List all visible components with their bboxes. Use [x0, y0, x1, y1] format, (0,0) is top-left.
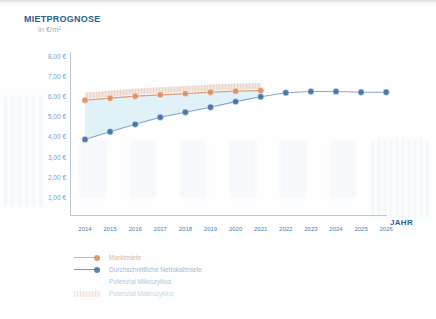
legend-line-marker-icon	[74, 253, 104, 263]
legend-area-swatch-icon	[74, 277, 104, 287]
legend-item-label: Potenzial Mikrozyklus	[109, 278, 172, 285]
legend-dot-icon	[94, 267, 100, 273]
legend-item[interactable]: Potenzial Makrozyklus	[74, 288, 202, 299]
legend-item[interactable]: Durchschnittliche Nettokaltmiete	[74, 264, 202, 275]
legend-item-label: Durchschnittliche Nettokaltmiete	[109, 266, 202, 273]
legend-item-label: Marktmiete	[109, 254, 141, 261]
legend-dot-icon	[94, 255, 100, 261]
legend-item[interactable]: Potenzial Mikrozyklus	[74, 276, 202, 287]
chart-legend: MarktmieteDurchschnittliche Nettokaltmie…	[74, 252, 202, 299]
series-svg	[0, 0, 436, 319]
legend-hatch-swatch-icon	[74, 289, 104, 299]
legend-line-marker-icon	[74, 265, 104, 275]
scanned-page: MIETPROGNOSE in €/m² 8,00 €7,00 €6,00 €5…	[0, 0, 436, 319]
legend-item-label: Potenzial Makrozyklus	[109, 290, 174, 297]
legend-item[interactable]: Marktmiete	[74, 252, 202, 263]
chart-plot-area: 8,00 €7,00 €6,00 €5,00 €4,00 €3,00 €2,00…	[0, 0, 436, 319]
legend-hatch-pattern	[74, 291, 101, 297]
